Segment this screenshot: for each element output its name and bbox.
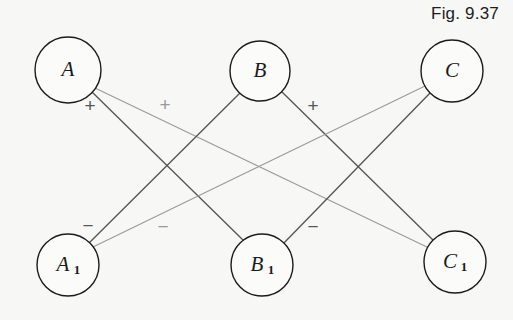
sign-minus-B: − <box>307 216 318 237</box>
edges-group <box>87 86 434 248</box>
figure-caption: Fig. 9.37 <box>431 4 499 24</box>
node-label-b: B <box>254 58 267 82</box>
node-label-a1: A <box>55 252 70 276</box>
network-diagram: ABCA1B1C1 +++−−− <box>0 0 513 320</box>
sign-plus-B: + <box>307 95 318 116</box>
node-label-c: C <box>445 58 460 82</box>
node-c[interactable]: C <box>421 40 483 102</box>
node-subscript-b1: 1 <box>268 262 275 277</box>
sign-minus-AC: − <box>157 216 168 237</box>
node-b[interactable]: B <box>230 41 290 101</box>
edge-c-to-a1 <box>93 86 425 247</box>
node-subscript-a1: 1 <box>74 262 81 277</box>
signs-group: +++−−− <box>82 94 318 237</box>
sign-plus-AC: + <box>159 94 170 115</box>
node-label-c1: C <box>443 249 458 273</box>
node-subscript-c1: 1 <box>461 259 468 274</box>
sign-minus-A: − <box>82 215 93 236</box>
node-a1[interactable]: A1 <box>37 234 99 296</box>
edge-c-to-b1 <box>283 93 430 244</box>
edge-a-to-c1 <box>95 88 429 248</box>
node-label-a: A <box>60 57 75 81</box>
node-c1[interactable]: C1 <box>424 231 486 293</box>
nodes-group: ABCA1B1C1 <box>35 37 486 296</box>
node-label-b1: B <box>251 252 264 276</box>
figure-container: ABCA1B1C1 +++−−− Fig. 9.37 <box>0 0 513 320</box>
sign-plus-A: + <box>84 95 95 116</box>
node-b1[interactable]: B1 <box>231 234 293 296</box>
node-a[interactable]: A <box>35 37 101 103</box>
